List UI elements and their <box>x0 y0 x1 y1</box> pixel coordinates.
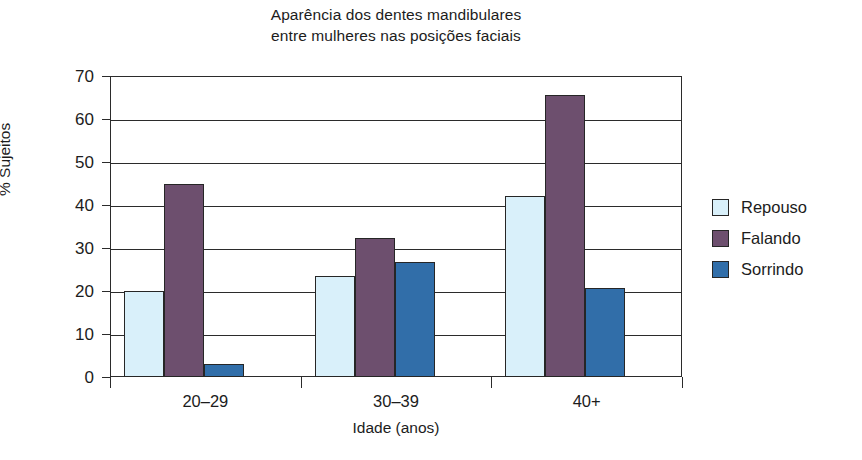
y-tick-label: 30 <box>0 240 94 257</box>
chart-figure: Aparência dos dentes mandibulares entre … <box>0 0 862 460</box>
legend-swatch-icon <box>712 261 729 278</box>
legend-swatch-icon <box>712 199 729 216</box>
y-tick-mark <box>102 205 110 206</box>
y-tick-mark <box>102 291 110 292</box>
y-tick-mark <box>102 76 110 77</box>
y-tick-mark <box>102 334 110 335</box>
y-tick-label: 60 <box>0 111 94 128</box>
gridline <box>111 163 681 164</box>
legend-label: Sorrindo <box>741 260 803 279</box>
y-tick-label: 0 <box>0 369 94 386</box>
legend-label: Falando <box>741 229 801 248</box>
y-tick-label: 70 <box>0 68 94 85</box>
x-tick-mark <box>491 377 492 388</box>
gridline <box>111 335 681 336</box>
y-tick-label: 40 <box>0 197 94 214</box>
y-tick-label: 20 <box>0 283 94 300</box>
chart-title: Aparência dos dentes mandibulares entre … <box>110 4 682 46</box>
y-tick-mark <box>102 248 110 249</box>
legend-swatch-icon <box>712 230 729 247</box>
y-tick-mark <box>102 377 110 378</box>
gridline <box>111 249 681 250</box>
gridline <box>111 120 681 121</box>
gridline <box>111 206 681 207</box>
gridline <box>111 292 681 293</box>
y-tick-mark <box>102 119 110 120</box>
x-tick-mark <box>682 377 683 388</box>
x-tick-mark <box>110 377 111 388</box>
y-tick-label: 10 <box>0 326 94 343</box>
plot-area <box>110 76 682 377</box>
legend-item-sorrindo[interactable]: Sorrindo <box>712 254 807 285</box>
x-tick-label: 20–29 <box>135 392 275 411</box>
y-tick-mark <box>102 162 110 163</box>
x-tick-label: 30–39 <box>326 392 466 411</box>
legend-label: Repouso <box>741 198 807 217</box>
y-tick-label: 50 <box>0 154 94 171</box>
legend-item-repouso[interactable]: Repouso <box>712 192 807 223</box>
x-tick-mark <box>301 377 302 388</box>
x-axis-title: Idade (anos) <box>110 419 682 437</box>
x-tick-label: 40+ <box>517 392 657 411</box>
legend-item-falando[interactable]: Falando <box>712 223 807 254</box>
chart-legend: RepousoFalandoSorrindo <box>712 192 807 285</box>
